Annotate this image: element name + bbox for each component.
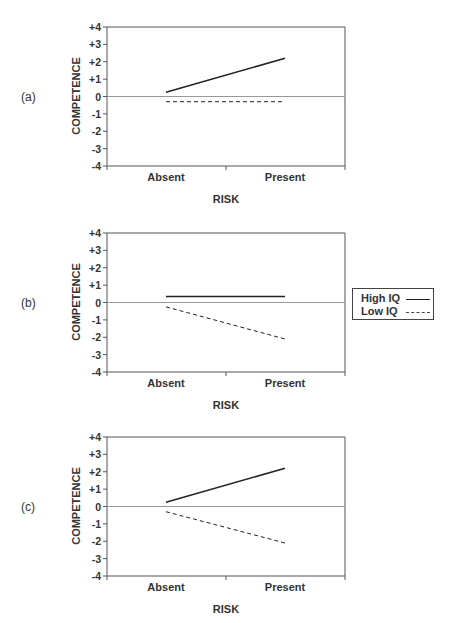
series-line-high-iq bbox=[166, 468, 285, 502]
y-tick-label: +3 bbox=[77, 448, 101, 460]
y-tick-label: +1 bbox=[77, 483, 101, 495]
legend-label-high-iq: High IQ bbox=[361, 292, 400, 304]
y-tick-label: -4 bbox=[77, 570, 101, 582]
y-tick-label: -1 bbox=[77, 518, 101, 530]
y-tick-label: -3 bbox=[77, 553, 101, 565]
y-tick-label: +4 bbox=[77, 431, 101, 443]
legend-label-low-iq: Low IQ bbox=[361, 305, 398, 317]
legend-item-low-iq: Low IQ bbox=[361, 305, 398, 317]
y-tick-label: -2 bbox=[77, 535, 101, 547]
dashed-line-swatch-icon bbox=[406, 312, 430, 313]
x-category-label: Absent bbox=[126, 581, 206, 593]
solid-line-swatch-icon bbox=[406, 299, 430, 300]
series-line-low-iq bbox=[166, 512, 285, 543]
legend-item-high-iq: High IQ bbox=[361, 292, 400, 304]
y-tick-label: +2 bbox=[77, 466, 101, 478]
x-axis-title: RISK bbox=[196, 603, 256, 615]
panel-label: (c) bbox=[21, 500, 35, 514]
x-category-label: Present bbox=[245, 581, 325, 593]
y-tick-label: 0 bbox=[77, 501, 101, 513]
chart-panel-c: (c)COMPETENCE+4+3+2+10-1-2-3-4AbsentPres… bbox=[0, 0, 454, 205]
chart-legend: High IQ Low IQ bbox=[352, 288, 434, 320]
